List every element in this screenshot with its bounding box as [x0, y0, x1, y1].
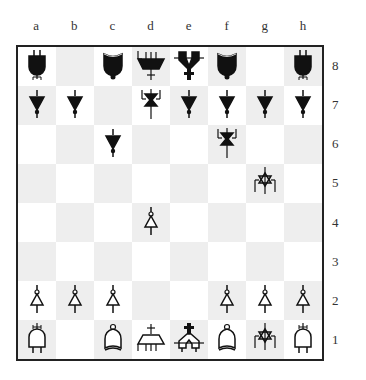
- square-e7[interactable]: [170, 86, 208, 125]
- square-h7[interactable]: [284, 86, 322, 125]
- white-rook-icon[interactable]: [22, 322, 52, 358]
- square-c2[interactable]: [94, 281, 132, 320]
- square-c3[interactable]: [94, 242, 132, 281]
- square-b7[interactable]: [56, 86, 94, 125]
- black-pawn-icon[interactable]: [174, 88, 204, 124]
- square-d4[interactable]: [132, 203, 170, 242]
- black-knight-icon[interactable]: [212, 127, 242, 163]
- square-f6[interactable]: [208, 125, 246, 164]
- square-g1[interactable]: [246, 320, 284, 359]
- white-knight-icon[interactable]: [250, 166, 280, 202]
- square-h2[interactable]: [284, 281, 322, 320]
- file-label-c: c: [93, 18, 131, 34]
- square-g4[interactable]: [246, 203, 284, 242]
- rank-label-4: 4: [332, 203, 352, 242]
- square-a7[interactable]: [18, 86, 56, 125]
- square-c4[interactable]: [94, 203, 132, 242]
- square-b3[interactable]: [56, 242, 94, 281]
- square-e8[interactable]: [170, 47, 208, 86]
- black-knight-icon[interactable]: [136, 88, 166, 124]
- square-b8[interactable]: [56, 47, 94, 86]
- square-a3[interactable]: [18, 242, 56, 281]
- file-label-g: g: [246, 18, 284, 34]
- black-pawn-icon[interactable]: [212, 88, 242, 124]
- square-h8[interactable]: [284, 47, 322, 86]
- white-pawn-icon[interactable]: [136, 205, 166, 241]
- black-rook-icon[interactable]: [288, 49, 318, 85]
- square-f8[interactable]: [208, 47, 246, 86]
- square-h3[interactable]: [284, 242, 322, 281]
- black-pawn-icon[interactable]: [22, 88, 52, 124]
- square-f4[interactable]: [208, 203, 246, 242]
- rank-label-6: 6: [332, 125, 352, 164]
- square-b4[interactable]: [56, 203, 94, 242]
- white-rook-icon[interactable]: [288, 322, 318, 358]
- square-e2[interactable]: [170, 281, 208, 320]
- rank-label-5: 5: [332, 164, 352, 203]
- square-c1[interactable]: [94, 320, 132, 359]
- black-rook-icon[interactable]: [22, 49, 52, 85]
- black-pawn-icon[interactable]: [250, 88, 280, 124]
- square-c7[interactable]: [94, 86, 132, 125]
- square-e1[interactable]: [170, 320, 208, 359]
- white-knight-icon[interactable]: [250, 322, 280, 358]
- black-pawn-icon[interactable]: [98, 127, 128, 163]
- black-pawn-icon[interactable]: [288, 88, 318, 124]
- square-a2[interactable]: [18, 281, 56, 320]
- white-pawn-icon[interactable]: [288, 283, 318, 319]
- square-g5[interactable]: [246, 164, 284, 203]
- square-b6[interactable]: [56, 125, 94, 164]
- white-pawn-icon[interactable]: [60, 283, 90, 319]
- square-c5[interactable]: [94, 164, 132, 203]
- black-pawn-icon[interactable]: [60, 88, 90, 124]
- square-e3[interactable]: [170, 242, 208, 281]
- square-f1[interactable]: [208, 320, 246, 359]
- square-d6[interactable]: [132, 125, 170, 164]
- square-g6[interactable]: [246, 125, 284, 164]
- square-d8[interactable]: [132, 47, 170, 86]
- square-h1[interactable]: [284, 320, 322, 359]
- square-g3[interactable]: [246, 242, 284, 281]
- white-pawn-icon[interactable]: [250, 283, 280, 319]
- square-e5[interactable]: [170, 164, 208, 203]
- square-b1[interactable]: [56, 320, 94, 359]
- black-king-icon[interactable]: [174, 49, 204, 85]
- square-e6[interactable]: [170, 125, 208, 164]
- square-g8[interactable]: [246, 47, 284, 86]
- white-bishop-icon[interactable]: [212, 322, 242, 358]
- white-pawn-icon[interactable]: [212, 283, 242, 319]
- square-h6[interactable]: [284, 125, 322, 164]
- black-bishop-icon[interactable]: [212, 49, 242, 85]
- square-e4[interactable]: [170, 203, 208, 242]
- square-d2[interactable]: [132, 281, 170, 320]
- square-d1[interactable]: [132, 320, 170, 359]
- white-queen-icon[interactable]: [136, 322, 166, 358]
- square-d3[interactable]: [132, 242, 170, 281]
- white-pawn-icon[interactable]: [22, 283, 52, 319]
- square-a5[interactable]: [18, 164, 56, 203]
- square-c8[interactable]: [94, 47, 132, 86]
- square-a8[interactable]: [18, 47, 56, 86]
- square-d7[interactable]: [132, 86, 170, 125]
- square-g2[interactable]: [246, 281, 284, 320]
- square-f3[interactable]: [208, 242, 246, 281]
- square-b2[interactable]: [56, 281, 94, 320]
- square-h4[interactable]: [284, 203, 322, 242]
- chess-board[interactable]: [16, 45, 324, 361]
- square-a1[interactable]: [18, 320, 56, 359]
- square-f7[interactable]: [208, 86, 246, 125]
- black-bishop-icon[interactable]: [98, 49, 128, 85]
- square-f2[interactable]: [208, 281, 246, 320]
- white-bishop-icon[interactable]: [98, 322, 128, 358]
- square-d5[interactable]: [132, 164, 170, 203]
- square-a4[interactable]: [18, 203, 56, 242]
- square-c6[interactable]: [94, 125, 132, 164]
- square-b5[interactable]: [56, 164, 94, 203]
- square-h5[interactable]: [284, 164, 322, 203]
- white-king-icon[interactable]: [174, 322, 204, 358]
- square-a6[interactable]: [18, 125, 56, 164]
- white-pawn-icon[interactable]: [98, 283, 128, 319]
- square-f5[interactable]: [208, 164, 246, 203]
- black-queen-icon[interactable]: [136, 49, 166, 85]
- square-g7[interactable]: [246, 86, 284, 125]
